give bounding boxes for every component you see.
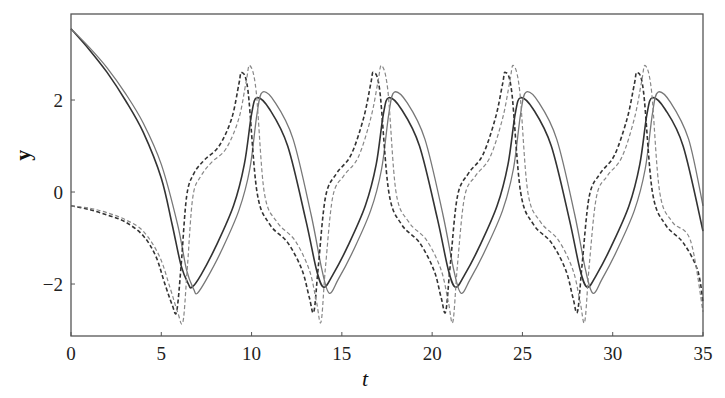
y-axis: −202 [43, 90, 75, 295]
x-tick-label: 25 [513, 343, 532, 364]
y-axis-label: y [10, 150, 35, 161]
series-layer [71, 29, 703, 324]
x-tick-label: 5 [157, 343, 167, 364]
y-tick-label: 2 [54, 90, 64, 111]
x-axis-label: t [362, 366, 369, 391]
x-tick-label: 30 [603, 343, 622, 364]
y-tick-label: −2 [43, 274, 63, 295]
series-solid-dark [71, 29, 703, 288]
x-tick-label: 0 [66, 343, 76, 364]
x-tick-label: 10 [242, 343, 261, 364]
line-chart: 05101520253035 −202 t y [0, 0, 725, 398]
x-tick-label: 35 [694, 343, 713, 364]
y-tick-label: 0 [54, 182, 64, 203]
x-tick-label: 20 [423, 343, 442, 364]
x-axis: 05101520253035 [66, 332, 712, 364]
x-tick-label: 15 [332, 343, 351, 364]
